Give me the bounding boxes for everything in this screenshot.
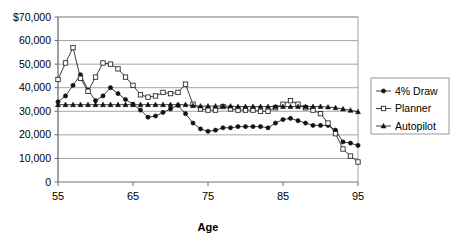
data-point-marker-circle	[243, 125, 247, 129]
data-point-marker-circle	[191, 121, 195, 125]
y-axis-tick-label: 40,000	[19, 81, 51, 93]
data-point-marker-square	[123, 75, 127, 79]
data-point-marker-square	[146, 95, 150, 99]
data-point-marker-circle	[266, 126, 270, 130]
data-point-marker-square	[258, 109, 262, 113]
x-axis-tick-label: 95	[352, 190, 364, 202]
data-point-marker-circle	[273, 121, 277, 125]
chart-legend: 4% DrawPlannerAutopilot	[371, 78, 449, 134]
data-point-marker-circle	[251, 125, 255, 129]
data-point-marker-circle	[138, 108, 142, 112]
data-point-marker-circle	[168, 107, 172, 111]
data-point-marker-square	[206, 108, 210, 112]
x-axis-tick-label: 55	[52, 190, 64, 202]
data-point-marker-circle	[236, 125, 240, 129]
x-axis-title: Age	[198, 221, 219, 233]
data-point-marker-circle	[161, 110, 165, 114]
data-point-marker-circle	[311, 123, 315, 127]
y-axis-tick-label: 30,000	[19, 105, 51, 117]
data-point-marker-circle	[348, 141, 352, 145]
data-point-marker-circle	[108, 86, 112, 90]
data-point-marker-circle	[303, 121, 307, 125]
data-point-marker-square	[101, 61, 105, 65]
data-point-marker-square	[333, 131, 337, 135]
data-point-marker-square	[288, 98, 292, 102]
x-axis-tick-label: 85	[277, 190, 289, 202]
data-point-marker-square	[131, 83, 135, 87]
data-point-marker-circle	[206, 129, 210, 133]
data-point-marker-circle	[123, 97, 127, 101]
data-point-marker-square	[356, 160, 360, 164]
x-axis-tick-label: 65	[127, 190, 139, 202]
data-point-marker-square	[116, 67, 120, 71]
data-point-marker-circle	[183, 112, 187, 116]
data-point-marker-square	[86, 89, 90, 93]
data-point-marker-square	[176, 90, 180, 94]
data-point-marker-square	[63, 61, 67, 65]
data-point-marker-square	[78, 76, 82, 80]
data-point-marker-square	[266, 109, 270, 113]
y-axis-tick-label: 20,000	[19, 128, 51, 140]
data-point-marker-square	[183, 82, 187, 86]
data-point-marker-square	[348, 154, 352, 158]
data-point-marker-circle	[71, 83, 75, 87]
data-point-marker-circle	[296, 119, 300, 123]
y-axis-tick-label: $70,000	[13, 11, 51, 23]
line-chart: 010,00020,00030,00040,00050,00060,000$70…	[0, 0, 454, 237]
data-point-marker-square	[56, 77, 60, 81]
data-point-marker-circle	[281, 117, 285, 121]
x-axis-tick-label: 75	[202, 190, 214, 202]
data-point-marker-circle	[288, 116, 292, 120]
data-point-marker-circle	[221, 126, 225, 130]
data-point-marker-square	[326, 121, 330, 125]
y-axis-tick-label: 60,000	[19, 34, 51, 46]
data-point-marker-square	[153, 94, 157, 98]
data-point-marker-square	[138, 93, 142, 97]
data-point-marker-circle	[258, 125, 262, 129]
data-point-marker-circle	[153, 114, 157, 118]
legend-entry-label: Planner	[395, 102, 432, 114]
data-point-marker-square	[381, 106, 385, 110]
data-point-marker-square	[108, 62, 112, 66]
data-point-marker-square	[168, 91, 172, 95]
data-point-marker-circle	[101, 94, 105, 98]
data-point-marker-square	[93, 75, 97, 79]
data-point-marker-square	[161, 90, 165, 94]
data-point-marker-circle	[146, 115, 150, 119]
chart-container: 010,00020,00030,00040,00050,00060,000$70…	[0, 0, 454, 237]
data-point-marker-circle	[341, 140, 345, 144]
data-point-marker-circle	[228, 126, 232, 130]
data-point-marker-square	[213, 108, 217, 112]
data-point-marker-circle	[198, 127, 202, 131]
data-point-marker-circle	[318, 123, 322, 127]
y-axis-tick-label: 0	[45, 176, 51, 188]
data-point-marker-square	[71, 45, 75, 49]
data-point-marker-square	[318, 111, 322, 115]
y-axis-tick-label: 10,000	[19, 152, 51, 164]
data-point-marker-circle	[356, 143, 360, 147]
data-point-marker-square	[341, 147, 345, 151]
data-point-marker-circle	[381, 89, 385, 93]
legend-entry-label: 4% Draw	[395, 85, 438, 97]
data-point-marker-circle	[116, 92, 120, 96]
y-axis-tick-label: 50,000	[19, 58, 51, 70]
data-point-marker-circle	[63, 94, 67, 98]
legend-entry-label: Autopilot	[395, 120, 436, 132]
data-point-marker-circle	[213, 128, 217, 132]
